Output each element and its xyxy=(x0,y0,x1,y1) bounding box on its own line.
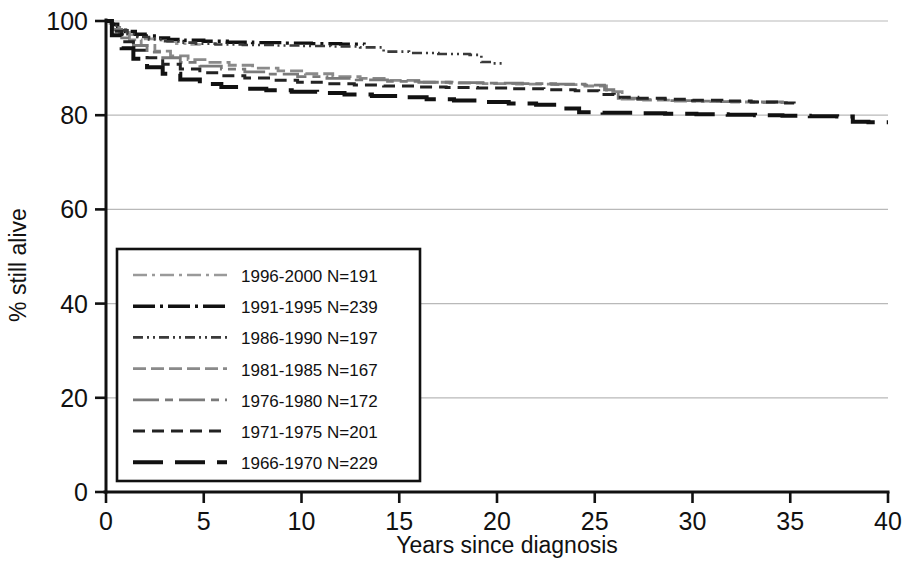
series-line-1966-1970 xyxy=(106,21,888,122)
series-group xyxy=(106,21,888,122)
legend-label-1971-1975: 1971-1975 N=201 xyxy=(241,423,378,442)
y-tick-labels: 020406080100 xyxy=(46,7,88,506)
y-tick-label: 0 xyxy=(74,478,88,506)
x-tick-label: 0 xyxy=(99,507,113,535)
x-tick-label: 30 xyxy=(679,507,707,535)
legend-label-1981-1985: 1981-1985 N=167 xyxy=(241,361,378,380)
legend-label-1976-1980: 1976-1980 N=172 xyxy=(241,392,378,411)
legend: 1996-2000 N=1911991-1995 N=2391986-1990 … xyxy=(117,249,420,481)
y-tick-label: 80 xyxy=(60,101,88,129)
x-axis-title: Years since diagnosis xyxy=(396,532,618,558)
chart-canvas: 0510152025303540 020406080100 Years sinc… xyxy=(0,0,909,568)
legend-label-1966-1970: 1966-1970 N=229 xyxy=(241,454,378,473)
y-tick-label: 20 xyxy=(60,384,88,412)
y-tick-label: 40 xyxy=(60,290,88,318)
series-line-1981-1985 xyxy=(106,21,786,103)
x-tick-label: 20 xyxy=(483,507,511,535)
x-tick-label: 40 xyxy=(874,507,902,535)
x-tick-label: 35 xyxy=(776,507,804,535)
y-tick-label: 100 xyxy=(46,7,88,35)
survival-chart-figure: 0510152025303540 020406080100 Years sinc… xyxy=(0,0,909,568)
y-axis-title: % still alive xyxy=(5,208,31,322)
legend-label-1996-2000: 1996-2000 N=191 xyxy=(241,267,378,286)
y-tick-label: 60 xyxy=(60,195,88,223)
series-line-1976-1980 xyxy=(106,21,782,102)
x-tick-label: 15 xyxy=(385,507,413,535)
series-line-1991-1995 xyxy=(106,21,364,45)
x-tick-label: 25 xyxy=(581,507,609,535)
x-tick-labels: 0510152025303540 xyxy=(99,507,902,535)
legend-label-1986-1990: 1986-1990 N=197 xyxy=(241,329,378,348)
legend-label-1991-1995: 1991-1995 N=239 xyxy=(241,298,378,317)
x-tick-label: 10 xyxy=(288,507,316,535)
x-tick-label: 5 xyxy=(197,507,211,535)
